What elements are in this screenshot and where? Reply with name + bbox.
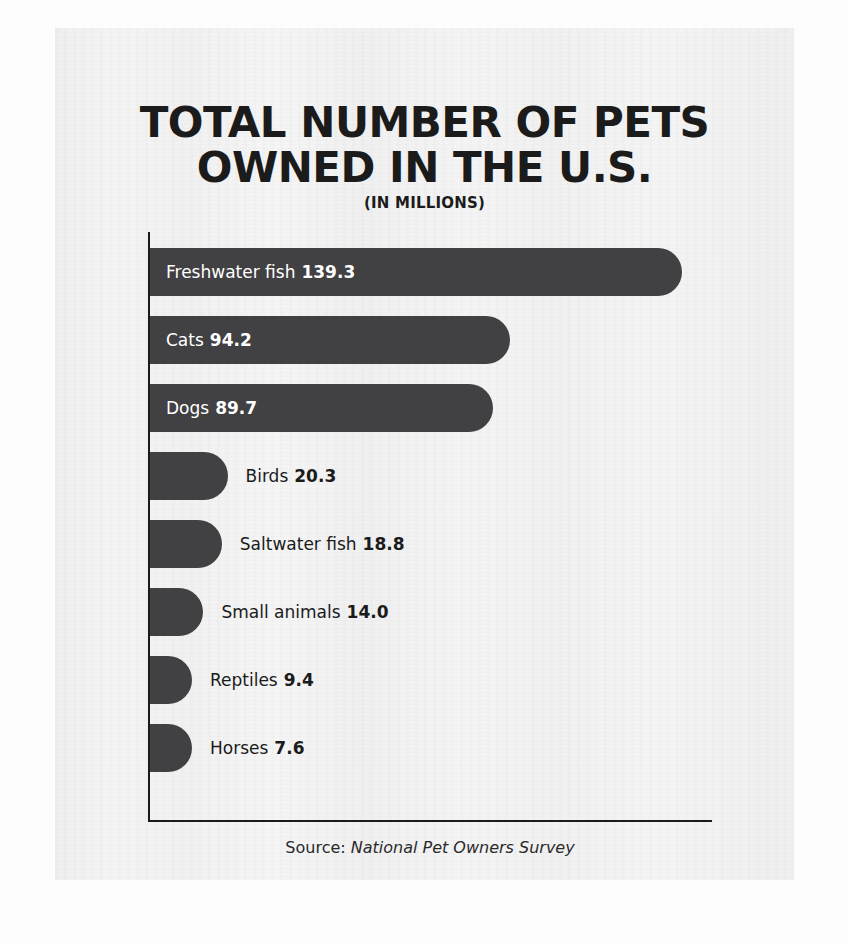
- bar-chart-plot-area: Freshwater fish139.3Cats94.2Dogs89.7Bird…: [148, 232, 712, 822]
- bar: [150, 656, 192, 704]
- bar: [150, 520, 222, 568]
- bar-label: Reptiles9.4: [210, 656, 314, 704]
- page-title-line-1: TOTAL NUMBER OF PETS: [0, 100, 849, 145]
- bar-series: Freshwater fish139.3Cats94.2Dogs89.7Bird…: [150, 248, 712, 792]
- bar-category-name: Birds: [246, 466, 289, 486]
- heading-block: TOTAL NUMBER OF PETS OWNED IN THE U.S. (…: [0, 100, 849, 212]
- source-prefix: Source:: [285, 838, 345, 857]
- bar-category-name: Dogs: [166, 398, 209, 418]
- bar-row: Freshwater fish139.3: [150, 248, 712, 316]
- bar-value-label: 18.8: [363, 534, 405, 554]
- bar-category-name: Saltwater fish: [240, 534, 357, 554]
- bar-row: Cats94.2: [150, 316, 712, 384]
- bar-row: Small animals14.0: [150, 588, 712, 656]
- bar: [150, 588, 203, 636]
- x-axis-baseline: [148, 820, 712, 822]
- bar-value-label: 89.7: [215, 398, 257, 418]
- bar-row: Birds20.3: [150, 452, 712, 520]
- bar-label: Small animals14.0: [221, 588, 388, 636]
- bar-label: Birds20.3: [246, 452, 337, 500]
- bar-category-name: Freshwater fish: [166, 262, 295, 282]
- source-survey-name: National Pet Owners Survey: [351, 838, 575, 857]
- bar-value-label: 139.3: [301, 262, 355, 282]
- bar: [150, 452, 228, 500]
- bar-category-name: Horses: [210, 738, 268, 758]
- bar: [150, 724, 192, 772]
- bar-row: Saltwater fish18.8: [150, 520, 712, 588]
- bar-value-label: 9.4: [284, 670, 314, 690]
- bar-row: Reptiles9.4: [150, 656, 712, 724]
- bar-label: Saltwater fish18.8: [240, 520, 405, 568]
- infographic-poster: TOTAL NUMBER OF PETS OWNED IN THE U.S. (…: [0, 0, 849, 943]
- bar-value-label: 94.2: [210, 330, 252, 350]
- bar-category-name: Cats: [166, 330, 204, 350]
- page-title-line-2: OWNED IN THE U.S.: [0, 145, 849, 190]
- bar-label: Dogs89.7: [166, 384, 257, 432]
- bar-category-name: Small animals: [221, 602, 340, 622]
- source-attribution: Source: National Pet Owners Survey: [148, 838, 712, 857]
- page-subtitle: (IN MILLIONS): [0, 194, 849, 212]
- bar-row: Dogs89.7: [150, 384, 712, 452]
- bar-label: Cats94.2: [166, 316, 252, 364]
- bar-label: Freshwater fish139.3: [166, 248, 355, 296]
- bar-label: Horses7.6: [210, 724, 304, 772]
- bar-value-label: 14.0: [347, 602, 389, 622]
- bar-row: Horses7.6: [150, 724, 712, 792]
- bar-value-label: 7.6: [274, 738, 304, 758]
- bar-category-name: Reptiles: [210, 670, 278, 690]
- bar-value-label: 20.3: [294, 466, 336, 486]
